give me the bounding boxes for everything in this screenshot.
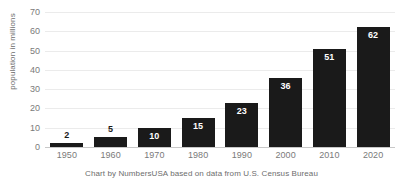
x-axis-tick-label: 1960 [101, 150, 121, 160]
bar: 15 [182, 118, 215, 147]
x-axis-tick-label: 1980 [188, 150, 208, 160]
bar: 36 [269, 78, 302, 147]
bar-value-label: 36 [269, 81, 302, 91]
bar-chart: population in millions 010203040506070 2… [0, 0, 403, 183]
x-axis-tick-label: 1950 [57, 150, 77, 160]
x-axis-tick-label: 2010 [319, 150, 339, 160]
y-axis-tick-label: 60 [30, 26, 40, 36]
plot-area: 25101523365162 [45, 12, 395, 147]
gridline [45, 12, 395, 13]
y-axis-tick-label: 20 [30, 103, 40, 113]
y-axis-tick-label: 70 [30, 7, 40, 17]
bar-value-label: 15 [182, 121, 215, 131]
y-axis-tick-label: 10 [30, 123, 40, 133]
x-axis-tick-label: 1970 [144, 150, 164, 160]
x-axis-tick-label: 2020 [363, 150, 383, 160]
bar-value-label: 5 [94, 124, 127, 134]
y-axis-tick-label: 30 [30, 84, 40, 94]
x-axis-tick-labels: 19501960197019801990200020102020 [45, 150, 395, 164]
axis-baseline [45, 147, 395, 148]
x-axis-tick-label: 1990 [232, 150, 252, 160]
bar-value-label: 23 [225, 106, 258, 116]
chart-caption: Chart by NumbersUSA based on data from U… [0, 169, 403, 178]
gridline [45, 31, 395, 32]
bar: 10 [138, 128, 171, 147]
bar: 2 [50, 143, 83, 147]
bar: 5 [94, 137, 127, 147]
y-axis-tick-label: 50 [30, 46, 40, 56]
bar: 62 [357, 27, 390, 147]
bar-value-label: 51 [313, 52, 346, 62]
x-axis-tick-label: 2000 [276, 150, 296, 160]
y-axis-tick-labels: 010203040506070 [16, 12, 40, 147]
bar-value-label: 62 [357, 30, 390, 40]
bar: 23 [225, 103, 258, 147]
bar-value-label: 2 [50, 130, 83, 140]
y-axis-tick-label: 40 [30, 65, 40, 75]
y-axis-tick-label: 0 [35, 142, 40, 152]
bar: 51 [313, 49, 346, 147]
bar-value-label: 10 [138, 131, 171, 141]
